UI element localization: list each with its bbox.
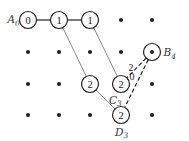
grid-dot [26,50,30,54]
point-label-d3: D3 [114,126,128,141]
node-value: 2 [118,110,123,121]
grid-dot [150,82,154,86]
node-value: 1 [87,15,92,26]
node-value: 2 [118,79,123,90]
grid-diagram: 011222 A0C3D3B420 [0,0,189,141]
grid-dot [57,82,61,86]
gray-edge [94,28,118,77]
grid-dot [150,18,154,22]
grid-dots-layer [26,18,154,117]
grid-dot [26,82,30,86]
edge-weight-label: 0 [130,71,135,82]
grid-dot [57,113,61,117]
node-value: 1 [56,15,61,26]
point-label-a0: A0 [7,13,21,28]
node-value: 0 [25,15,30,26]
grid-dot [88,50,92,54]
point-label-b4: B4 [163,46,177,61]
nodes-layer: 011222 [20,12,161,124]
grid-dot [119,18,123,22]
grid-dot [88,113,92,117]
gray-edge [63,28,87,77]
grid-dot [119,50,123,54]
point-label-c3: C3 [109,94,122,109]
node-value: 2 [87,79,92,90]
grid-dot [57,50,61,54]
node-center-dot [150,50,154,54]
grid-dot [26,113,30,117]
grid-dot [150,113,154,117]
